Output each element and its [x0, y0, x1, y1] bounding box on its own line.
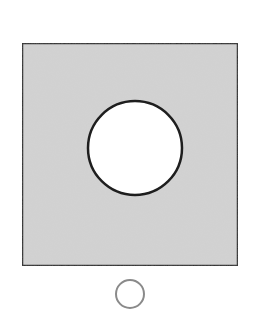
diagram-canvas [0, 0, 261, 310]
small-circle [116, 280, 144, 308]
white-circle-hole [88, 101, 182, 195]
